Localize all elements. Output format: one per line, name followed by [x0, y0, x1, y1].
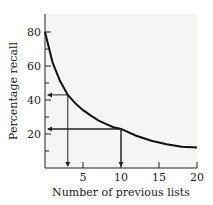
x-tick-label: 10	[114, 171, 128, 184]
y-tick-label: 60	[27, 60, 41, 73]
recall-chart: 20406080 5101520 Number of previous list…	[0, 0, 213, 205]
y-axis-label: Percentage recall	[7, 42, 20, 140]
x-tick-label: 15	[152, 171, 166, 184]
x-tick-label: 20	[190, 171, 204, 184]
x-axis-label: Number of previous lists	[52, 186, 190, 199]
y-tick-label: 40	[27, 94, 41, 107]
x-tick-label: 5	[80, 171, 87, 184]
y-tick-label: 80	[27, 26, 41, 39]
y-tick-label: 20	[27, 128, 41, 141]
